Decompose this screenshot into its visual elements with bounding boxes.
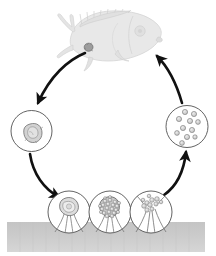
life-cycle-canvas bbox=[0, 0, 216, 256]
stage-released-tomites bbox=[130, 191, 172, 233]
arrow-theronts-to-host bbox=[157, 56, 182, 103]
stage-dividing-tomont bbox=[89, 191, 131, 233]
life-cycle-figure bbox=[0, 0, 216, 256]
arrow-host-to-encysted-stage bbox=[38, 53, 85, 103]
arrow-encysted-to-attached-tomont bbox=[30, 154, 59, 197]
stage-free-swimming-theronts bbox=[166, 106, 208, 148]
fish-host bbox=[57, 9, 162, 71]
trophont-on-fish bbox=[84, 43, 93, 51]
stage-attached-tomont bbox=[48, 191, 90, 233]
cycle-arrows bbox=[30, 53, 186, 197]
arrow-released-to-free-swimming-theronts bbox=[164, 152, 186, 195]
stage-encysted-stage bbox=[11, 111, 52, 152]
